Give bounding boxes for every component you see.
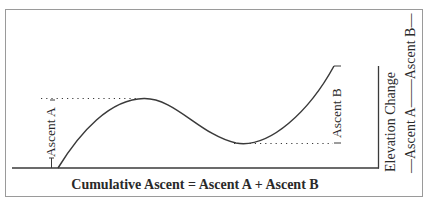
elevation-profile-curve bbox=[58, 66, 334, 168]
ascent-a-label: Ascent A bbox=[44, 107, 58, 157]
cumulative-ascent-label: Cumulative Ascent = Ascent A + Ascent B bbox=[12, 177, 378, 193]
ascent-b-label: Ascent B bbox=[330, 88, 344, 138]
elevation-change-text: Elevation Change bbox=[383, 72, 398, 172]
ascent-sum-text: —Ascent A——Ascent B— bbox=[403, 14, 418, 173]
ascent-a-text: Ascent A bbox=[43, 107, 58, 157]
ascent-sum-label: —Ascent A——Ascent B— bbox=[404, 14, 418, 173]
elevation-diagram bbox=[0, 0, 433, 204]
elevation-change-label: Elevation Change bbox=[384, 72, 398, 172]
ascent-b-text: Ascent B bbox=[329, 88, 344, 138]
